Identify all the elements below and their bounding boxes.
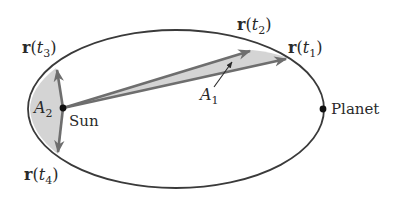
label-sun: Sun [69,112,99,130]
label-planet: Planet [331,100,379,118]
label-r-t1: r(t1) [288,38,322,60]
planet-dot [320,106,327,113]
sun-dot [60,105,67,112]
orbit-ellipse [28,30,324,188]
label-r-t3: r(t3) [22,38,56,60]
vector-r-t1 [63,59,286,108]
kepler-orbit-diagram: r(t3) r(t2) r(t1) r(t4) A1 A2 Sun Planet [0,0,404,199]
label-r-t4: r(t4) [24,165,58,187]
label-r-t2: r(t2) [237,15,271,37]
label-a1: A1 [198,85,219,107]
vector-r-t2 [63,51,250,108]
